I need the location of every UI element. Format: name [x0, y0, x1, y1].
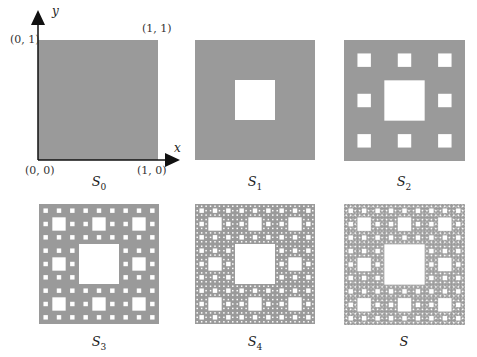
coord-y-one: (0, 1)	[10, 33, 40, 46]
coord-x-one: (1, 0)	[137, 164, 167, 177]
label-s0: S0	[69, 174, 129, 192]
label-s4: S4	[225, 334, 285, 352]
carpet-s0	[38, 40, 158, 160]
y-axis-label: y	[52, 4, 59, 18]
label-s3: S3	[69, 334, 129, 352]
x-axis-arrow-icon	[165, 153, 180, 167]
x-axis-label: x	[174, 141, 181, 155]
label-s1: S1	[225, 174, 285, 192]
coord-origin: (0, 0)	[25, 164, 55, 177]
y-axis-arrow-icon	[31, 10, 45, 25]
label-s2: S2	[374, 174, 434, 192]
label-s: S	[374, 334, 434, 352]
coord-corner: (1, 1)	[142, 22, 172, 35]
